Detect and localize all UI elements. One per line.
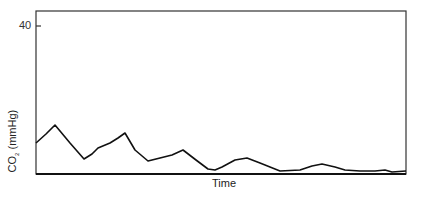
ylabel-main: CO [6,156,18,173]
y-axis-label: CO2 (mmHg) [6,106,20,176]
ylabel-sub: 2 [14,153,20,156]
ylabel-rest: (mmHg) [6,110,18,153]
co2-curve [36,125,406,172]
co2-chart [0,0,426,197]
plot-frame [36,11,406,174]
x-axis-label: Time [0,177,426,189]
y-tick-label: 40 [19,19,31,31]
